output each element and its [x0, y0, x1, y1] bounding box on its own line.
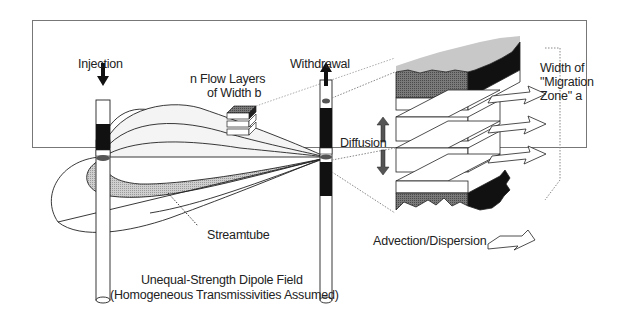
width-label-1: Width of: [540, 61, 584, 75]
diffusion-label: Diffusion: [340, 136, 387, 150]
caption-line-2: (Homogeneous Transmissivities Assumed): [110, 288, 339, 302]
width-label-3: Zone" a: [540, 89, 582, 103]
caption-line-1: Unequal-Strength Dipole Field: [141, 273, 303, 287]
streamtube-label: Streamtube: [207, 228, 270, 242]
advection-legend-arrow-icon: [488, 230, 535, 250]
width-label-2: "Migration: [540, 75, 594, 89]
dipole-field: [51, 105, 326, 233]
withdrawal-label: Withdrawal: [290, 57, 350, 71]
diagram-svg: [0, 0, 640, 330]
large-layer-stack: [396, 36, 520, 210]
flow-layers-label-1: n Flow Layers: [190, 72, 265, 86]
injection-label: Injection: [78, 57, 123, 71]
diagram-canvas: Injection Withdrawal n Flow Layers of Wi…: [0, 0, 640, 330]
advection-label: Advection/Dispersion: [373, 234, 486, 248]
injection-well: [96, 63, 110, 303]
flow-layers-label-2: of Width b: [207, 86, 261, 100]
withdrawal-well: [320, 62, 332, 303]
